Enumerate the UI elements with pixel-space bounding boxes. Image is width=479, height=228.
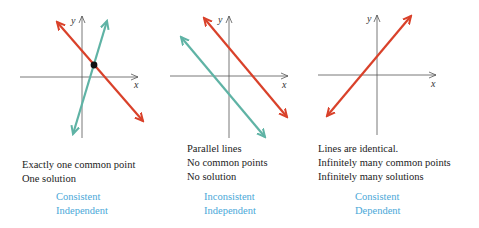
y-axis-label: y: [217, 14, 223, 25]
graph-identical-lines: x y: [300, 0, 479, 150]
caption-line-3: Infinitely many solutions: [318, 170, 424, 184]
y-axis-label: y: [70, 15, 76, 26]
intersection-point: [91, 62, 98, 69]
x-axis-label: x: [281, 79, 287, 90]
classification-1: Consistent: [56, 190, 100, 204]
classification-2: Independent: [204, 204, 256, 218]
teal-line: [73, 21, 107, 134]
graph-parallel-lines: x y: [150, 0, 310, 150]
caption-line-2: No common points: [187, 156, 268, 170]
panel-one-solution: x y Exactly one common point One solutio…: [0, 0, 160, 228]
red-line: [57, 22, 143, 121]
caption-line-1: Exactly one common point: [22, 158, 135, 172]
red-line: [204, 18, 287, 117]
teal-line: [181, 37, 265, 137]
panel-infinite-solutions: x y Lines are identical. Infinitely many…: [300, 0, 479, 228]
caption-line-2: Infinitely many common points: [318, 156, 451, 170]
classification-1: Consistent: [355, 190, 399, 204]
classification-1: Inconsistent: [204, 190, 255, 204]
y-axis-label: y: [366, 13, 372, 24]
x-axis-label: x: [430, 78, 436, 89]
classification-2: Dependent: [355, 204, 400, 218]
classification-2: Independent: [56, 204, 108, 218]
caption-line-1: Parallel lines: [187, 142, 242, 156]
caption-line-3: No solution: [187, 170, 236, 184]
x-axis-label: x: [133, 79, 139, 90]
graph-intersecting-lines: x y: [0, 0, 160, 150]
caption-line-1: Lines are identical.: [318, 142, 398, 156]
panel-no-solution: x y Parallel lines No common points No s…: [150, 0, 310, 228]
red-line: [327, 16, 411, 116]
caption-line-2: One solution: [22, 172, 76, 186]
